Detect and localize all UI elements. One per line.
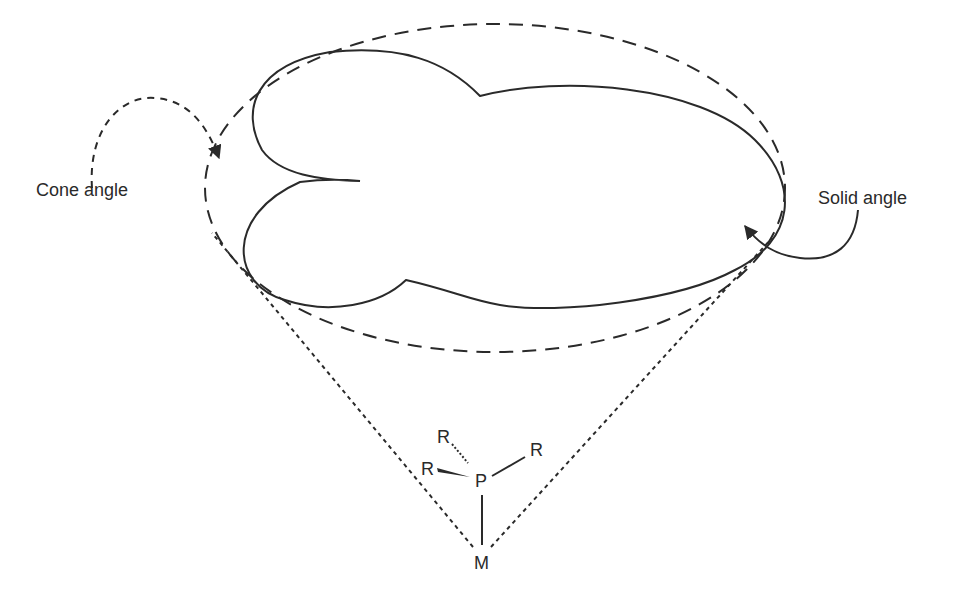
- atom-r-right: R: [530, 440, 543, 461]
- cone-right-line: [491, 238, 772, 547]
- diagram-canvas: [0, 0, 956, 599]
- bond-p-r-right: [492, 457, 525, 476]
- cone-angle-pointer: [92, 98, 219, 188]
- atom-m: M: [474, 553, 489, 574]
- bond-p-r-hashed: [452, 444, 468, 463]
- solid-angle-label: Solid angle: [818, 188, 907, 209]
- atom-r-left: R: [421, 459, 434, 480]
- atom-p: P: [475, 471, 487, 492]
- cone-left-line: [212, 233, 473, 547]
- atom-r-top: R: [437, 427, 450, 448]
- bond-p-r-wedge: [437, 468, 470, 477]
- cone-angle-label: Cone angle: [36, 180, 128, 201]
- ligand-silhouette: [244, 50, 785, 308]
